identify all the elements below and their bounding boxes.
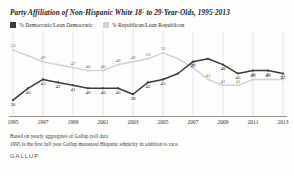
data-point-label: 46	[86, 64, 92, 69]
x-axis-tick-label: 2005	[157, 119, 168, 125]
legend-swatch-republican-icon	[103, 22, 109, 28]
data-point-label: 41	[221, 79, 227, 84]
chart-x-axis: 1995199719992001200320052007200920112013	[9, 119, 287, 129]
x-axis-tick-label: 2009	[217, 119, 228, 125]
data-point-label: 38	[131, 96, 137, 101]
x-axis-tick-label: 2013	[277, 119, 288, 125]
data-point-republican	[177, 58, 179, 60]
data-point-republican	[117, 64, 119, 66]
data-point-republican	[12, 49, 14, 51]
data-point-republican	[72, 67, 74, 69]
data-point-label: 40	[101, 90, 107, 95]
x-axis-tick-label: 2011	[248, 119, 259, 125]
legend-swatch-democratic-icon	[10, 22, 16, 28]
chart-footnotes: Based on yearly aggregates of Gallup pol…	[10, 132, 286, 148]
data-point-label: 49	[131, 55, 137, 60]
data-point-label: 40	[116, 90, 122, 95]
x-axis-tick-label: 2001	[97, 119, 108, 125]
data-point-label: 43	[161, 81, 167, 86]
legend-item-republican: % Republican/Lean Republican	[103, 22, 185, 28]
data-point-label: 45	[281, 75, 287, 80]
data-point-democratic	[177, 72, 179, 74]
data-point-label: 48	[116, 58, 122, 63]
data-point-label: 42	[56, 84, 62, 89]
data-point-label: 42	[146, 84, 152, 89]
data-point-republican	[162, 52, 164, 54]
x-axis-tick-label: 2003	[127, 119, 138, 125]
x-axis-tick-label: 1995	[7, 119, 18, 125]
series-line-democratic	[13, 59, 283, 100]
data-point-republican	[87, 69, 89, 71]
chart-plot-area: 5349474646484950524743414143434336404342…	[9, 31, 287, 117]
data-point-republican	[42, 61, 44, 63]
data-point-label: 45	[236, 75, 242, 80]
gallup-chart-card: Party Affiliation of Non-Hispanic White …	[0, 0, 294, 176]
data-point-label: 46	[251, 72, 257, 77]
data-point-republican	[27, 55, 29, 57]
data-point-democratic	[207, 58, 209, 60]
data-point-label: 47	[71, 61, 77, 66]
page-title: Party Affiliation of Non-Hispanic White …	[10, 9, 286, 17]
legend-label-republican: % Republican/Lean Republican	[112, 22, 185, 28]
data-point-republican	[237, 84, 239, 86]
data-point-label: 49	[191, 63, 197, 68]
data-point-label: 46	[101, 64, 107, 69]
x-axis-tick-label: 1997	[37, 119, 48, 125]
data-point-republican	[222, 84, 224, 86]
data-point-republican	[57, 64, 59, 66]
data-point-label: 49	[41, 55, 47, 60]
legend-label-democratic: % Democratic/Lean Democratic	[19, 22, 93, 28]
x-axis-tick-label: 1999	[67, 119, 78, 125]
data-point-label: 50	[146, 52, 152, 57]
x-axis-tick-label: 2007	[187, 119, 198, 125]
chart-legend: % Democratic/Lean Democratic % Republica…	[10, 22, 286, 28]
data-point-republican	[102, 69, 104, 71]
data-point-republican	[132, 61, 134, 63]
gallup-logo: GALLUP	[10, 153, 286, 159]
footnote-line-1: Based on yearly aggregates of Gallup pol…	[10, 132, 286, 140]
data-point-republican	[207, 78, 209, 80]
data-point-label: 36	[11, 102, 17, 107]
data-point-label: 46	[266, 72, 272, 77]
chart-point-labels: 5349474646484950524743414143434336404342…	[11, 43, 287, 106]
data-point-label: 48	[221, 66, 227, 71]
data-point-republican	[147, 58, 149, 60]
line-chart-svg: 5349474646484950524743414143434336404342…	[9, 31, 287, 117]
data-point-republican	[267, 78, 269, 80]
chart-gridlines	[13, 31, 283, 116]
data-point-label: 40	[86, 90, 92, 95]
data-point-republican	[252, 78, 254, 80]
data-point-label: 41	[71, 87, 77, 92]
data-point-label: 52	[161, 46, 167, 51]
legend-item-democratic: % Democratic/Lean Democratic	[10, 22, 93, 28]
data-point-label: 53	[11, 43, 17, 48]
footnote-line-2: 1995 is the first full year Gallup measu…	[10, 140, 286, 148]
data-point-label: 40	[26, 90, 32, 95]
data-point-label: 43	[41, 81, 47, 86]
data-point-label: 43	[206, 73, 212, 78]
